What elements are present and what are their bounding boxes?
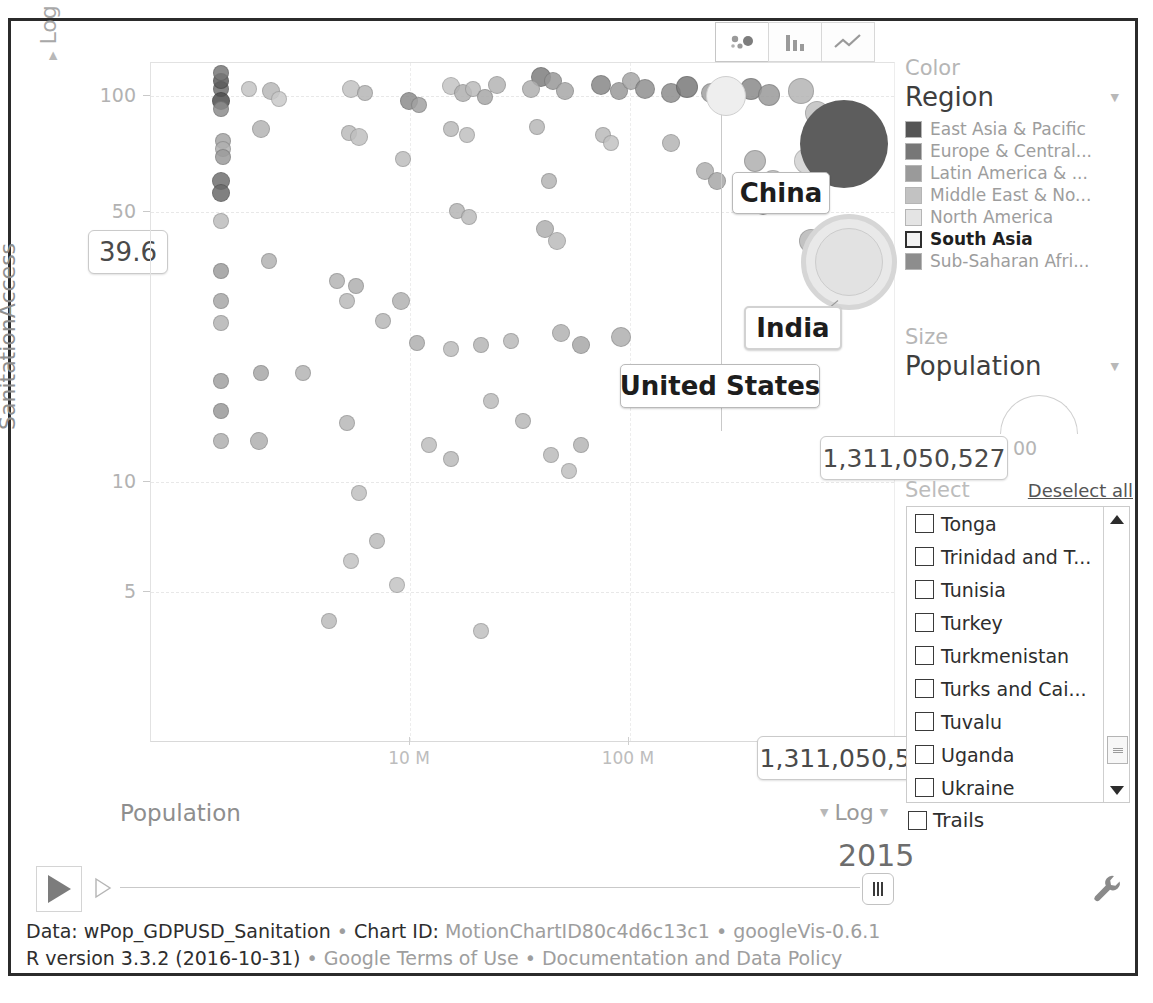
country-checkbox[interactable]: [915, 646, 934, 665]
country-checkbox[interactable]: [915, 712, 934, 731]
data-point[interactable]: [483, 393, 499, 409]
data-point[interactable]: [213, 263, 229, 279]
scroll-down-button[interactable]: [1104, 778, 1129, 802]
settings-button[interactable]: [1090, 872, 1124, 910]
data-point[interactable]: [561, 463, 577, 479]
deselect-all-link[interactable]: Deselect all: [1028, 480, 1133, 501]
label-united-states[interactable]: United States: [620, 364, 820, 408]
data-point[interactable]: [261, 253, 277, 269]
data-point[interactable]: [522, 80, 540, 98]
color-variable-selector[interactable]: Region ▼: [905, 82, 1135, 112]
data-point[interactable]: [443, 341, 459, 357]
scroll-up-button[interactable]: [1104, 507, 1129, 531]
country-list-item[interactable]: Turks and Cai...: [907, 672, 1129, 705]
trails-checkbox[interactable]: [908, 811, 927, 830]
data-point[interactable]: [635, 79, 655, 99]
data-point[interactable]: [543, 447, 559, 463]
data-point[interactable]: [351, 485, 367, 501]
country-checkbox[interactable]: [915, 514, 934, 533]
data-point[interactable]: [395, 151, 411, 167]
data-point[interactable]: [357, 85, 373, 101]
data-point[interactable]: [515, 413, 531, 429]
country-list-item[interactable]: Tonga: [907, 507, 1129, 540]
data-point[interactable]: [375, 313, 391, 329]
data-point[interactable]: [473, 337, 489, 353]
timeline-thumb[interactable]: [862, 873, 894, 905]
data-point[interactable]: [443, 121, 459, 137]
data-point[interactable]: [250, 432, 268, 450]
size-variable-selector[interactable]: Population ▼: [905, 351, 1135, 381]
bubble-india[interactable]: [815, 228, 883, 296]
legend-item-3[interactable]: Middle East & No...: [905, 184, 1135, 206]
footer-terms-link[interactable]: Google Terms of Use: [324, 947, 519, 969]
data-point[interactable]: [591, 75, 611, 95]
data-point[interactable]: [213, 315, 229, 331]
data-point[interactable]: [252, 120, 270, 138]
data-point[interactable]: [339, 293, 355, 309]
country-list-item[interactable]: Ukraine: [907, 771, 1129, 803]
country-checkbox[interactable]: [915, 679, 934, 698]
data-point[interactable]: [459, 127, 475, 143]
label-china[interactable]: China: [732, 172, 830, 214]
play-button[interactable]: [36, 866, 82, 912]
country-checkbox[interactable]: [915, 580, 934, 599]
legend-item-0[interactable]: East Asia & Pacific: [905, 118, 1135, 140]
legend-item-2[interactable]: Latin America & ...: [905, 162, 1135, 184]
trails-option[interactable]: Trails: [908, 808, 984, 832]
data-point[interactable]: [473, 623, 489, 639]
data-point[interactable]: [421, 437, 437, 453]
country-checkbox[interactable]: [915, 547, 934, 566]
label-india[interactable]: India: [744, 306, 842, 350]
data-point[interactable]: [213, 213, 229, 229]
legend-item-4[interactable]: North America: [905, 206, 1135, 228]
country-list-scrollbar[interactable]: [1103, 507, 1129, 802]
data-point[interactable]: [611, 327, 631, 347]
data-point[interactable]: [339, 415, 355, 431]
data-point[interactable]: [552, 324, 570, 342]
country-checkbox[interactable]: [915, 613, 934, 632]
data-point[interactable]: [676, 76, 698, 98]
data-point[interactable]: [488, 76, 506, 94]
bubble-chart-tab[interactable]: [715, 22, 769, 62]
country-list-item[interactable]: Turkey: [907, 606, 1129, 639]
data-point[interactable]: [212, 184, 230, 202]
data-point[interactable]: [529, 119, 545, 135]
data-point[interactable]: [213, 101, 229, 117]
chevron-down-icon[interactable]: ▼: [1111, 91, 1119, 104]
country-list-items[interactable]: TongaTrinidad and T...TunisiaTurkeyTurkm…: [907, 507, 1129, 803]
legend-item-6[interactable]: Sub-Saharan Afri...: [905, 250, 1135, 272]
data-point[interactable]: [343, 553, 359, 569]
country-list-item[interactable]: Trinidad and T...: [907, 540, 1129, 573]
data-point[interactable]: [215, 149, 231, 165]
x-axis-scale-selector[interactable]: ▼ Log ▼: [820, 800, 888, 825]
legend-item-5[interactable]: South Asia: [905, 228, 1135, 250]
footer-docs-link[interactable]: Documentation and Data Policy: [542, 947, 842, 969]
data-point[interactable]: [662, 134, 680, 152]
data-point[interactable]: [411, 97, 427, 113]
data-point[interactable]: [369, 533, 385, 549]
data-point[interactable]: [213, 293, 229, 309]
data-point[interactable]: [409, 335, 425, 351]
country-list-item[interactable]: Turkmenistan: [907, 639, 1129, 672]
data-point[interactable]: [443, 451, 459, 467]
country-list-item[interactable]: Tunisia: [907, 573, 1129, 606]
data-point[interactable]: [295, 365, 311, 381]
chevron-down-icon[interactable]: ▼: [1111, 360, 1119, 373]
data-point[interactable]: [213, 433, 229, 449]
data-point[interactable]: [321, 613, 337, 629]
country-list-item[interactable]: Tuvalu: [907, 705, 1129, 738]
data-point[interactable]: [541, 173, 557, 189]
data-point[interactable]: [788, 78, 814, 104]
country-select-list[interactable]: TongaTrinidad and T...TunisiaTurkeyTurkm…: [906, 506, 1130, 803]
data-point[interactable]: [350, 128, 368, 146]
bubble-united-states[interactable]: [706, 76, 746, 116]
country-list-item[interactable]: Uganda: [907, 738, 1129, 771]
data-point[interactable]: [348, 278, 364, 294]
data-point[interactable]: [271, 91, 287, 107]
data-point[interactable]: [744, 150, 766, 172]
timeline-track[interactable]: [120, 887, 860, 888]
data-point[interactable]: [758, 84, 780, 106]
country-checkbox[interactable]: [915, 745, 934, 764]
region-legend[interactable]: East Asia & PacificEurope & Central...La…: [905, 118, 1135, 272]
data-point[interactable]: [503, 333, 519, 349]
